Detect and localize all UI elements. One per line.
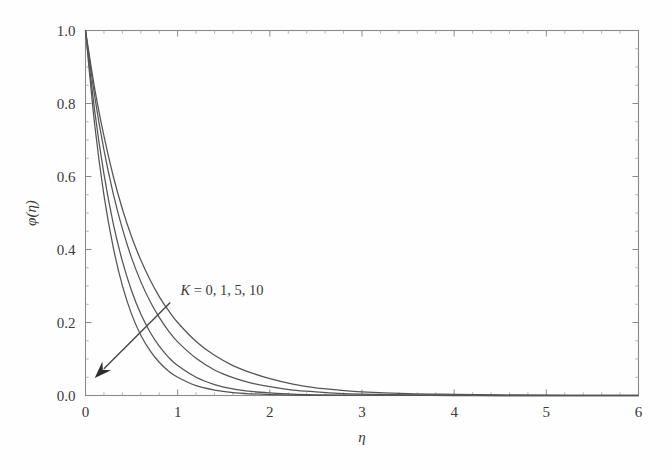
x-tick-label: 6 (635, 404, 643, 420)
curve-series-0 (86, 31, 639, 396)
x-tick-label: 5 (543, 404, 551, 420)
y-axis-title: φ(η) (23, 200, 40, 226)
x-tick-labels: 0123456 (82, 404, 643, 420)
y-tick-label: 1.0 (57, 23, 76, 39)
parameter-annotation-label: K = 0, 1, 5, 10 (179, 282, 263, 298)
curve-series-1 (86, 31, 639, 396)
x-tick-label: 4 (450, 404, 458, 420)
curve-series-2 (86, 31, 639, 396)
axis-ticks (86, 31, 639, 396)
axes-frame (86, 31, 639, 396)
data-curves (86, 31, 639, 396)
y-tick-label: 0.6 (57, 169, 76, 185)
figure-container: 0123456 0.00.20.40.60.81.0 K = 0, 1, 5, … (0, 0, 672, 470)
y-tick-label: 0.2 (57, 315, 76, 331)
x-axis-title: η (358, 429, 365, 445)
arrow-shaft (104, 302, 170, 368)
y-tick-labels: 0.00.20.40.60.81.0 (57, 23, 76, 404)
curve-series-3 (86, 31, 639, 396)
chart-canvas: 0123456 0.00.20.40.60.81.0 K = 0, 1, 5, … (0, 0, 672, 470)
x-tick-label: 0 (82, 404, 90, 420)
plot-frame (86, 31, 639, 396)
y-tick-label: 0.0 (57, 388, 76, 404)
x-tick-label: 2 (266, 404, 274, 420)
annotation-arrow (95, 302, 171, 378)
annotation-equals: = (190, 282, 205, 298)
annotation-values: 0, 1, 5, 10 (206, 282, 264, 298)
x-tick-label: 1 (174, 404, 182, 420)
y-tick-label: 0.8 (57, 96, 76, 112)
x-tick-label: 3 (358, 404, 366, 420)
y-tick-label: 0.4 (57, 242, 76, 258)
